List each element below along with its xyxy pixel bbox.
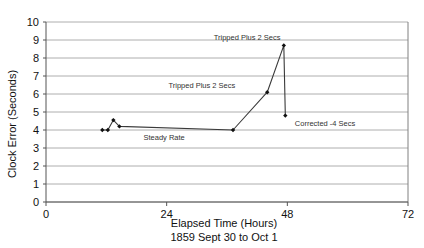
y-tick-label: 2 bbox=[33, 160, 39, 172]
x-tick-label: 72 bbox=[402, 208, 414, 220]
annotation-label: Tripped Plus 2 Secs bbox=[168, 81, 235, 90]
x-axis-subtitle: 1859 Sept 30 to Oct 1 bbox=[170, 231, 277, 243]
y-tick-label: 6 bbox=[33, 88, 39, 100]
y-tick-label: 1 bbox=[33, 178, 39, 190]
annotation-label: Tripped Plus 2 Secs bbox=[214, 33, 281, 42]
y-tick-label: 4 bbox=[33, 124, 39, 136]
clock-error-line-chart: 0244872 012345678910 Tripped Plus 2 Secs… bbox=[0, 0, 424, 248]
y-tick-label: 7 bbox=[33, 70, 39, 82]
y-tick-label: 3 bbox=[33, 142, 39, 154]
annotation-label: Steady Rate bbox=[144, 133, 185, 142]
y-tick-label: 0 bbox=[33, 196, 39, 208]
y-tick-label: 9 bbox=[33, 34, 39, 46]
chart-background bbox=[0, 0, 424, 248]
x-axis-title: Elapsed Time (Hours) bbox=[171, 217, 277, 229]
annotation-label: Corrected -4 Secs bbox=[295, 119, 356, 128]
chart-container: 0244872 012345678910 Tripped Plus 2 Secs… bbox=[0, 0, 424, 248]
x-tick-label: 48 bbox=[281, 208, 293, 220]
y-axis-title: Clock Error (Seconds) bbox=[6, 70, 18, 178]
x-tick-label: 0 bbox=[43, 208, 49, 220]
y-tick-label: 10 bbox=[27, 16, 39, 28]
y-tick-label: 8 bbox=[33, 52, 39, 64]
y-tick-label: 5 bbox=[33, 106, 39, 118]
